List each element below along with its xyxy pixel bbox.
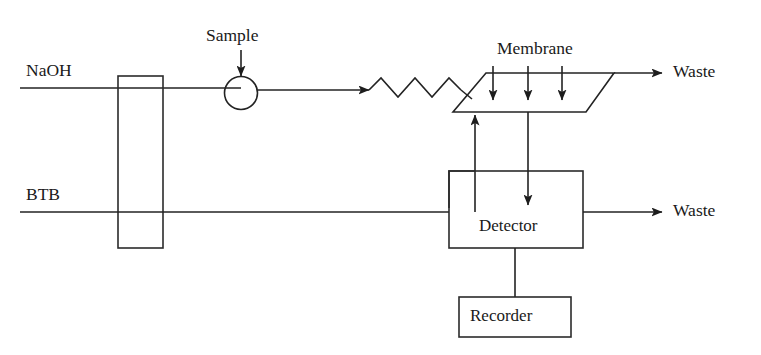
sample-label: Sample — [206, 27, 259, 45]
recorder-label: Recorder — [470, 307, 532, 324]
membrane-unit — [453, 73, 614, 112]
detector-inlet-box — [449, 171, 475, 208]
membrane-label: Membrane — [497, 40, 573, 58]
membrane-permeation-arrows — [493, 66, 562, 100]
diagram-canvas: NaOH BTB Sample Membrane Waste Waste Det… — [0, 0, 761, 355]
waste-top-label: Waste — [673, 63, 715, 81]
pump-block — [118, 76, 163, 248]
reaction-coil — [369, 78, 461, 97]
detector-unit — [449, 171, 583, 248]
sample-injection-valve — [225, 77, 258, 110]
diagram-svg — [0, 0, 761, 355]
waste-bottom-label: Waste — [673, 202, 715, 220]
btb-label: BTB — [26, 186, 60, 204]
naoh-label: NaOH — [26, 62, 72, 80]
detector-label: Detector — [479, 217, 538, 234]
